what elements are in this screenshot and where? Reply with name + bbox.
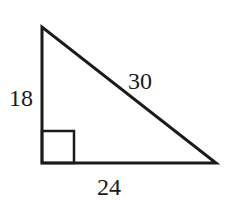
triangle-diagram: 18 30 24 bbox=[0, 0, 230, 200]
hypotenuse-label: 30 bbox=[128, 68, 152, 94]
horizontal-leg-label: 24 bbox=[97, 174, 121, 200]
triangle bbox=[42, 27, 216, 163]
vertical-leg-label: 18 bbox=[9, 85, 33, 111]
right-angle-marker bbox=[42, 131, 74, 163]
